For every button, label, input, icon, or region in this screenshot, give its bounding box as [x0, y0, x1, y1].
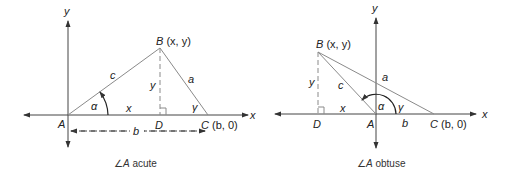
- side-a-label: a: [188, 73, 194, 85]
- vertex-b-label: B (x, y): [316, 38, 351, 50]
- side-c: [318, 52, 376, 114]
- gamma-label: γ: [398, 101, 405, 113]
- caption-obtuse: ∠A obtuse: [357, 158, 406, 169]
- point-d-label: D: [155, 119, 163, 131]
- law-of-cosines-figure: y x A B (x, y) C (b, 0) D c a b x y α γ …: [0, 0, 508, 175]
- gamma-label: γ: [192, 101, 199, 113]
- right-angle-mark: [160, 108, 166, 115]
- side-a-label: a: [382, 71, 388, 83]
- x-axis-label: x: [481, 108, 488, 120]
- diagram-canvas: y x A B (x, y) C (b, 0) D c a b x y α γ …: [0, 0, 508, 175]
- x-axis-label: x: [249, 109, 256, 121]
- segment-x-label: x: [125, 102, 132, 114]
- side-c-label: c: [110, 69, 116, 81]
- side-b-label: b: [402, 117, 408, 129]
- acute-diagram: y x A B (x, y) C (b, 0) D c a b x y α γ …: [24, 5, 256, 169]
- obtuse-diagram: y x A B (x, y) C (b, 0) D c a b x y α γ …: [275, 2, 488, 169]
- vertex-a-label: A: [366, 118, 374, 130]
- side-b-label: b: [133, 125, 139, 137]
- vertex-c-label: C (b, 0): [201, 119, 238, 131]
- segment-y-label: y: [149, 79, 157, 91]
- alpha-arc: [100, 92, 108, 115]
- vertex-b-label: B (x, y): [156, 35, 191, 47]
- side-a: [160, 48, 208, 115]
- alpha-label: α: [91, 100, 98, 112]
- side-c-label: c: [338, 79, 344, 91]
- y-axis-label: y: [63, 5, 71, 17]
- side-c: [68, 48, 160, 115]
- right-angle-mark: [318, 107, 324, 114]
- point-d-label: D: [313, 118, 321, 130]
- y-axis-label: y: [371, 2, 379, 14]
- vertex-a-label: A: [57, 118, 65, 130]
- caption-acute: ∠A acute: [114, 158, 157, 169]
- vertex-c-label: C (b, 0): [430, 118, 467, 130]
- segment-x-label: x: [339, 102, 346, 114]
- segment-y-label: y: [308, 76, 316, 88]
- alpha-label: α: [378, 100, 385, 112]
